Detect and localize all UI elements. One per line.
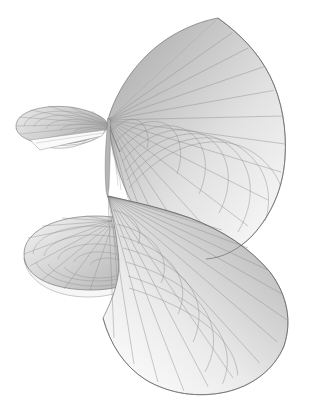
helicoid-surface-svg bbox=[0, 0, 309, 417]
surface-sheet-upper-flap bbox=[16, 106, 108, 150]
surface-plot-figure bbox=[0, 0, 309, 417]
surface-sheet-lower-main-lobe bbox=[103, 196, 288, 414]
